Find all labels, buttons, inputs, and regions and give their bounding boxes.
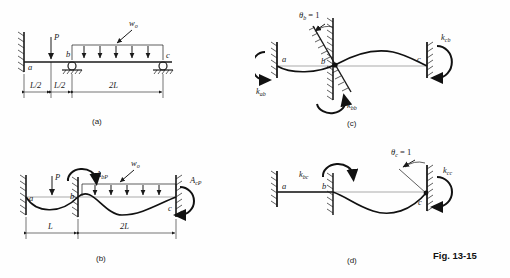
label-kab: kab bbox=[256, 86, 266, 97]
node-label-c-c: c bbox=[417, 54, 421, 64]
point-load-P-b: P bbox=[52, 172, 60, 195]
joint-marker-b-c bbox=[332, 62, 337, 67]
panel-b: P wo AbP AcP a b c L 2L (b) bbox=[0, 139, 255, 278]
moment-kab: kab bbox=[255, 52, 266, 97]
dimension-set-b: L 2L bbox=[26, 217, 176, 239]
unit-rotation-theta-c: θc = 1 bbox=[391, 147, 426, 193]
figure-number: Fig. 13-15 bbox=[433, 250, 478, 261]
label-kbb: kbb bbox=[347, 100, 357, 111]
svg-text:P: P bbox=[54, 172, 60, 182]
dimension-label-l: L bbox=[47, 221, 53, 231]
support-wall-c-b bbox=[176, 175, 182, 217]
label-kbc: kbc bbox=[299, 169, 309, 180]
support-roller-b-a bbox=[62, 62, 82, 74]
moment-kcc: kcc bbox=[437, 165, 452, 207]
caption-d: (d) bbox=[347, 256, 357, 265]
dimension-label-2l: 2L bbox=[109, 80, 118, 90]
node-label-c-d: c bbox=[418, 197, 422, 207]
deflected-shape-d bbox=[333, 192, 427, 213]
node-label-b-d: b bbox=[322, 181, 326, 191]
support-wall-a bbox=[18, 32, 24, 72]
unit-rotation-theta-b: θb = 1 bbox=[299, 10, 333, 31]
node-label-a: a bbox=[28, 62, 32, 72]
moment-kbc: kbc bbox=[299, 164, 353, 180]
label-theta-c: θc = 1 bbox=[391, 147, 411, 158]
panel-c: θb = 1 kab kbb kcb a b c (c) bbox=[255, 0, 510, 139]
moment-abp: AbP bbox=[68, 169, 108, 181]
node-label-b: b bbox=[66, 49, 70, 59]
label-w0-b: wo bbox=[131, 158, 140, 169]
moment-acp: AcP bbox=[180, 175, 202, 215]
panel-a: P wo bbox=[0, 0, 255, 139]
support-wall-a-b bbox=[20, 175, 26, 215]
caption-a: (a) bbox=[92, 117, 102, 126]
caption-c: (c) bbox=[347, 119, 357, 128]
support-wall-c-d bbox=[427, 165, 433, 211]
label-abp: AbP bbox=[95, 169, 108, 180]
node-label-a-c: a bbox=[282, 54, 286, 64]
figure-13-15: P wo bbox=[0, 0, 510, 278]
dimension-label-l-half-2: L/2 bbox=[53, 80, 66, 90]
svg-text:P: P bbox=[53, 32, 59, 42]
dimension-set-a: L/2 L/2 2L bbox=[24, 62, 163, 98]
moment-kbb: kbb bbox=[317, 100, 357, 113]
panel-d: θc = 1 kbc kcc a b c (d) Fig. 13-15 bbox=[255, 139, 510, 278]
support-wall-c-c bbox=[427, 42, 433, 78]
support-roller-c-a bbox=[153, 62, 173, 74]
dimension-label-2l-b: 2L bbox=[120, 221, 129, 231]
label-w0-a: wo bbox=[129, 18, 138, 29]
support-wall-a-d bbox=[271, 171, 277, 207]
support-rotated-b-c bbox=[309, 26, 351, 92]
node-label-b-c: b bbox=[321, 56, 325, 66]
node-label-c: c bbox=[166, 50, 170, 60]
distributed-load-a: wo bbox=[72, 18, 163, 60]
node-label-a-d: a bbox=[282, 181, 286, 191]
label-kcc: kcc bbox=[443, 165, 452, 176]
label-acp: AcP bbox=[189, 175, 202, 186]
caption-b: (b) bbox=[96, 254, 106, 263]
node-label-b-b: b bbox=[70, 191, 74, 201]
label-kcb: kcb bbox=[441, 32, 450, 43]
deflected-shape-c bbox=[277, 51, 427, 72]
support-wall-b-d bbox=[327, 173, 333, 215]
node-label-a-b: a bbox=[29, 193, 33, 203]
dimension-label-l-half-1: L/2 bbox=[29, 80, 42, 90]
label-theta-b: θb = 1 bbox=[299, 10, 319, 21]
point-load-P-a: P bbox=[51, 32, 59, 59]
moment-kcb: kcb bbox=[437, 32, 452, 78]
node-label-c-b: c bbox=[168, 203, 172, 213]
support-wall-a-c bbox=[271, 42, 277, 78]
